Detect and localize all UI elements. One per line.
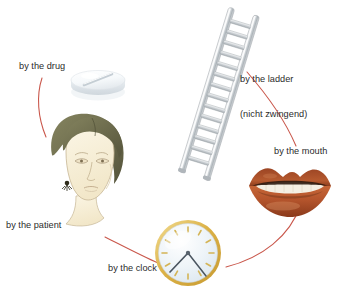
diagram-canvas: by the drug by the ladder (nicht zwingen… (0, 0, 346, 287)
pill-tablet-icon (71, 71, 125, 101)
arc-patient-to-drug (39, 78, 46, 137)
arc-patient-to-clock (105, 237, 158, 263)
label-by-the-ladder-line2: (nicht zwingend) (240, 109, 307, 121)
label-by-the-mouth: by the mouth (274, 146, 327, 158)
diagram-illustration (0, 0, 346, 287)
label-by-the-clock: by the clock (108, 263, 157, 275)
label-by-the-ladder: by the ladder (nicht zwingend) (240, 51, 307, 143)
lips-mouth-icon (249, 168, 331, 217)
analog-clock-icon (155, 220, 221, 286)
patient-head-icon (51, 114, 123, 226)
label-by-the-ladder-line1: by the ladder (240, 74, 307, 86)
label-by-the-drug: by the drug (19, 61, 65, 73)
label-by-the-patient: by the patient (6, 220, 61, 232)
